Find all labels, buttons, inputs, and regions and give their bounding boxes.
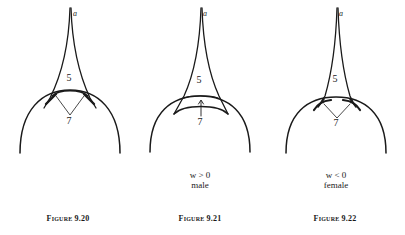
fig-9-21-label-7: 7	[198, 117, 203, 127]
fig-9-22-caption: Figure 9.22	[314, 214, 357, 223]
diagram-canvas	[0, 0, 405, 235]
fig-9-20-label-7: 7	[67, 116, 72, 126]
cusp-curve-left	[174, 8, 201, 114]
fig-9-22-condition: w < 0	[326, 170, 347, 180]
v-lines	[56, 96, 84, 115]
fig-9-22-label-a: a	[339, 9, 343, 19]
fig-9-20-label-a: a	[73, 9, 77, 19]
fig-9-22-label-5: 5	[333, 74, 338, 84]
fig-9-20-label-5: 5	[67, 73, 72, 83]
v-lines	[324, 104, 350, 118]
cusp-curve-right	[338, 8, 353, 102]
fig-9-22-label-7: 7	[334, 118, 339, 128]
fig-9-21-label-5: 5	[197, 75, 202, 85]
cusp-curve-left	[321, 8, 337, 102]
fig-9-22-sex: female	[324, 180, 348, 190]
fig-9-21-sex: male	[191, 180, 209, 190]
fig-9-21-label-a: a	[203, 9, 207, 19]
fig-9-21-caption: Figure 9.21	[179, 214, 222, 223]
fig-9-20-caption: Figure 9.20	[47, 214, 90, 223]
fig-9-21-condition: w > 0	[190, 170, 211, 180]
